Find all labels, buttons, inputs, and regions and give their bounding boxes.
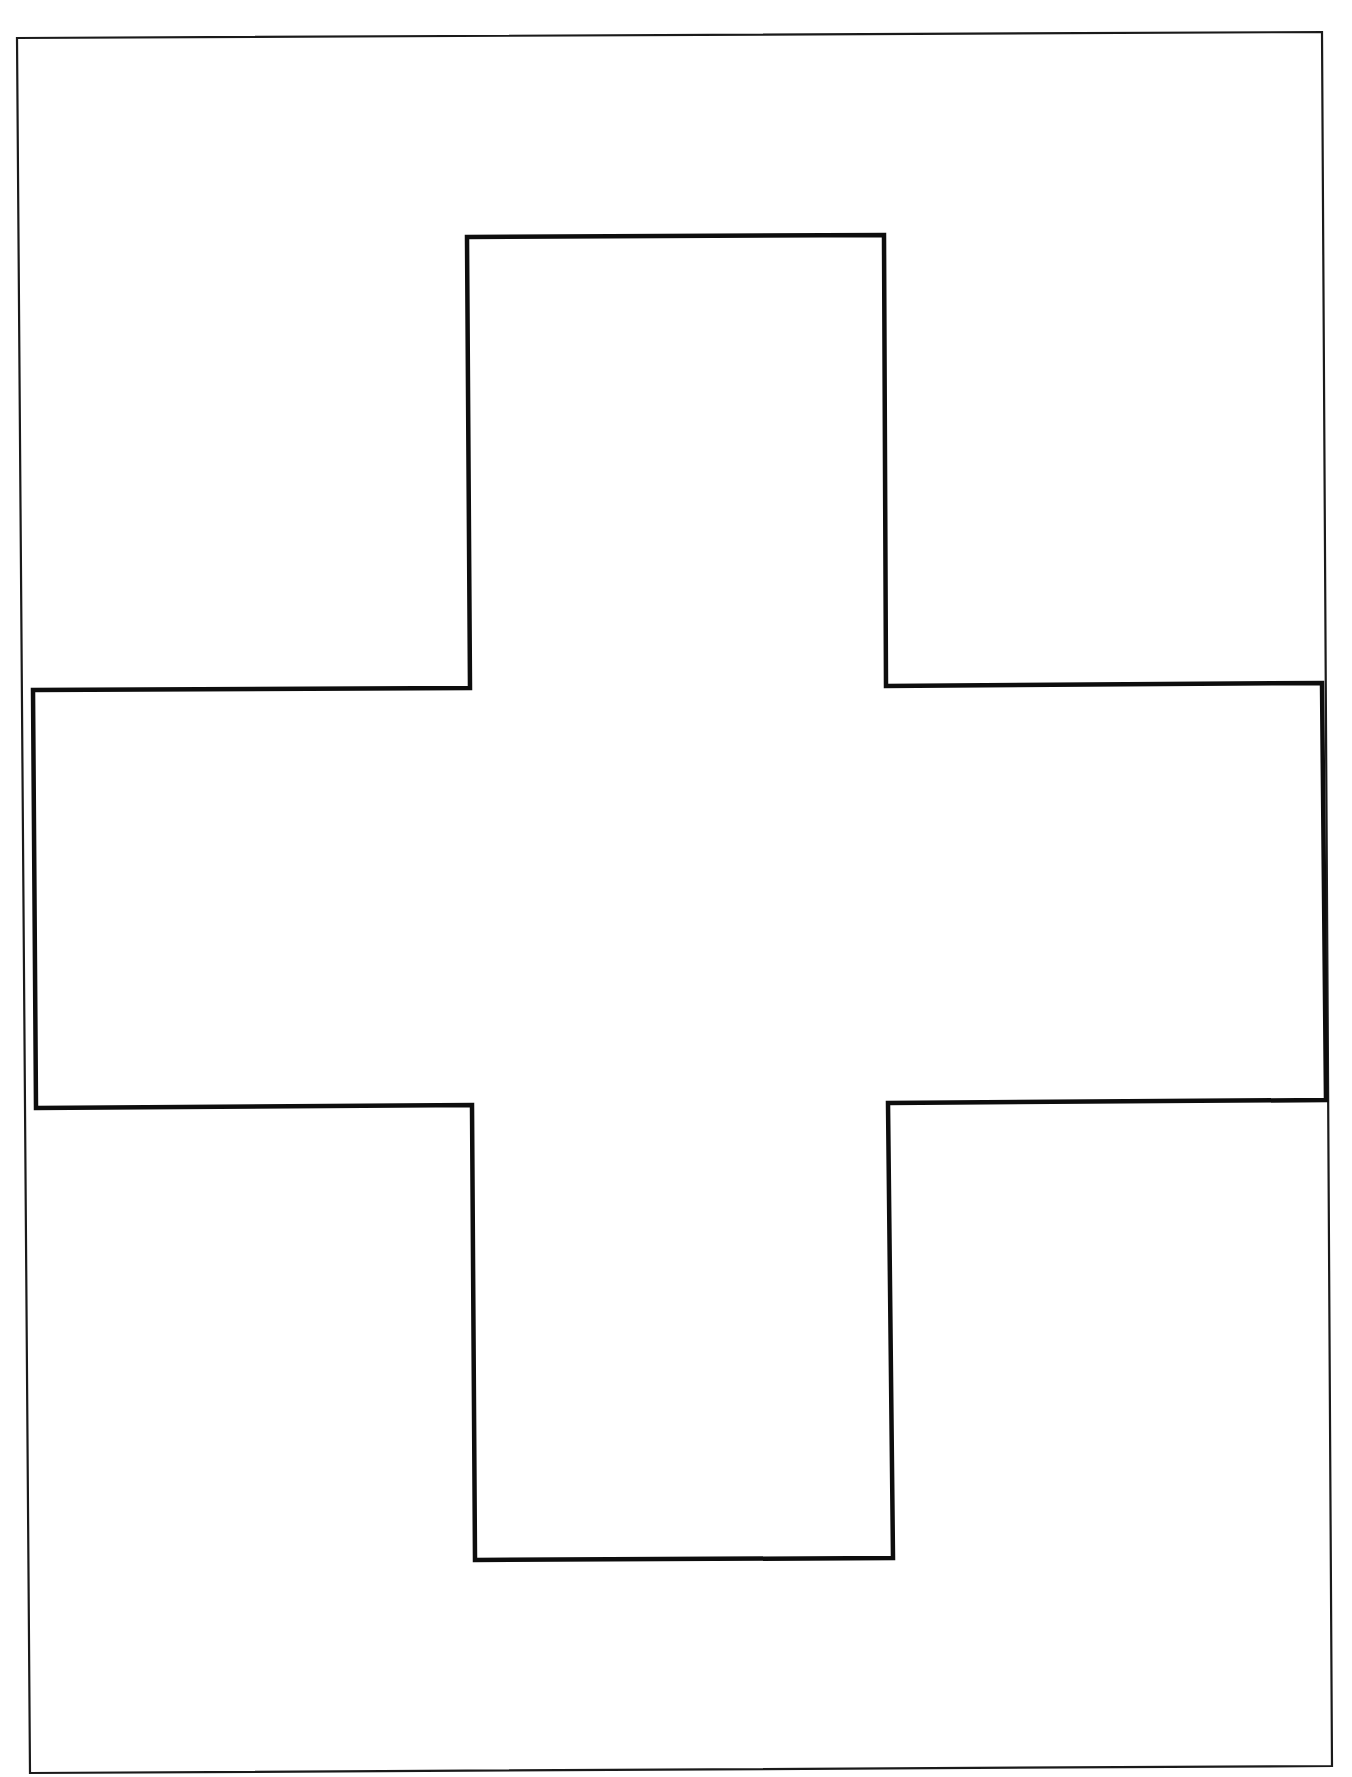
cross-outline-shape — [33, 235, 1326, 1560]
outer-frame-border — [17, 32, 1332, 1773]
document-page — [0, 0, 1352, 1777]
cross-diagram — [0, 0, 1352, 1777]
